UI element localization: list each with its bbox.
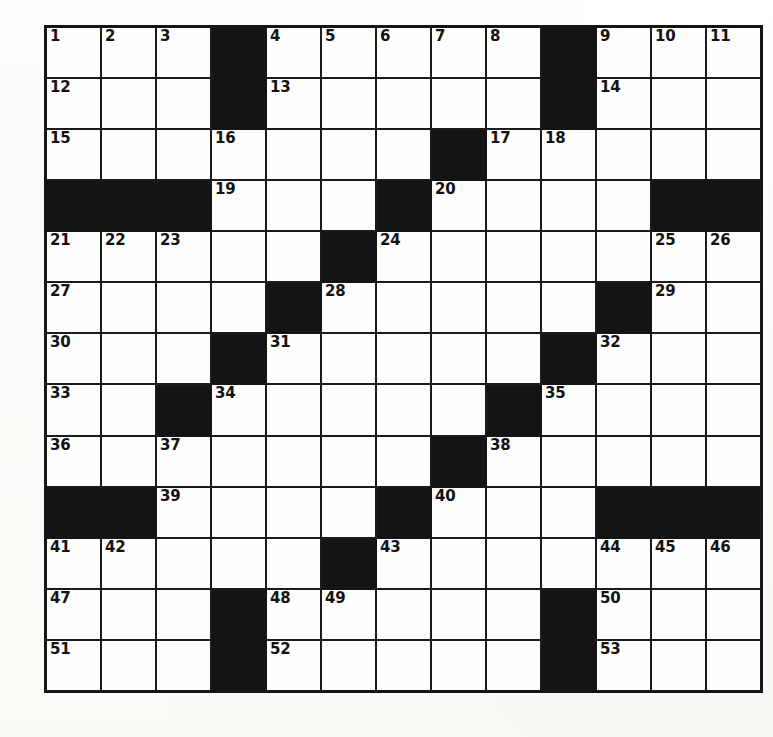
crossword-cell[interactable] xyxy=(266,436,321,487)
crossword-cell[interactable]: 9 xyxy=(596,27,651,79)
crossword-cell[interactable] xyxy=(321,180,376,231)
crossword-cell[interactable] xyxy=(156,129,211,180)
crossword-cell[interactable]: 31 xyxy=(266,333,321,384)
crossword-cell[interactable] xyxy=(321,384,376,435)
crossword-cell[interactable] xyxy=(706,384,762,435)
crossword-cell[interactable] xyxy=(431,282,486,333)
crossword-cell[interactable] xyxy=(156,333,211,384)
crossword-cell[interactable]: 15 xyxy=(46,129,102,180)
crossword-cell[interactable] xyxy=(266,129,321,180)
crossword-cell[interactable] xyxy=(431,333,486,384)
crossword-cell[interactable]: 19 xyxy=(211,180,266,231)
crossword-cell[interactable] xyxy=(211,436,266,487)
crossword-cell[interactable] xyxy=(156,640,211,692)
crossword-cell[interactable] xyxy=(211,538,266,589)
crossword-cell[interactable]: 28 xyxy=(321,282,376,333)
crossword-cell[interactable]: 8 xyxy=(486,27,541,79)
crossword-cell[interactable] xyxy=(706,78,762,129)
crossword-cell[interactable]: 35 xyxy=(541,384,596,435)
crossword-cell[interactable] xyxy=(376,282,431,333)
crossword-cell[interactable] xyxy=(596,129,651,180)
crossword-cell[interactable]: 42 xyxy=(101,538,156,589)
crossword-cell[interactable] xyxy=(706,282,762,333)
crossword-cell[interactable] xyxy=(541,180,596,231)
crossword-cell[interactable] xyxy=(321,333,376,384)
crossword-cell[interactable]: 49 xyxy=(321,589,376,640)
crossword-cell[interactable]: 6 xyxy=(376,27,431,79)
crossword-cell[interactable] xyxy=(376,589,431,640)
crossword-cell[interactable] xyxy=(376,436,431,487)
crossword-cell[interactable]: 11 xyxy=(706,27,762,79)
crossword-cell[interactable] xyxy=(431,231,486,282)
crossword-cell[interactable]: 51 xyxy=(46,640,102,692)
crossword-cell[interactable] xyxy=(266,180,321,231)
crossword-cell[interactable]: 43 xyxy=(376,538,431,589)
crossword-cell[interactable] xyxy=(596,231,651,282)
crossword-cell[interactable]: 3 xyxy=(156,27,211,79)
crossword-cell[interactable] xyxy=(101,384,156,435)
crossword-cell[interactable]: 47 xyxy=(46,589,102,640)
crossword-cell[interactable]: 5 xyxy=(321,27,376,79)
crossword-cell[interactable] xyxy=(321,487,376,538)
crossword-cell[interactable]: 1 xyxy=(46,27,102,79)
crossword-cell[interactable]: 13 xyxy=(266,78,321,129)
crossword-cell[interactable]: 37 xyxy=(156,436,211,487)
crossword-cell[interactable]: 14 xyxy=(596,78,651,129)
crossword-cell[interactable] xyxy=(101,589,156,640)
crossword-cell[interactable]: 26 xyxy=(706,231,762,282)
crossword-cell[interactable]: 34 xyxy=(211,384,266,435)
crossword-grid[interactable]: 1234567891011121314151617181920212223242… xyxy=(44,25,763,693)
crossword-cell[interactable]: 52 xyxy=(266,640,321,692)
crossword-cell[interactable] xyxy=(321,436,376,487)
crossword-cell[interactable] xyxy=(156,589,211,640)
crossword-cell[interactable] xyxy=(651,333,706,384)
crossword-cell[interactable]: 39 xyxy=(156,487,211,538)
crossword-cell[interactable] xyxy=(486,487,541,538)
crossword-cell[interactable] xyxy=(211,231,266,282)
crossword-cell[interactable]: 45 xyxy=(651,538,706,589)
crossword-cell[interactable] xyxy=(266,538,321,589)
crossword-cell[interactable] xyxy=(101,640,156,692)
crossword-cell[interactable] xyxy=(376,640,431,692)
crossword-cell[interactable]: 27 xyxy=(46,282,102,333)
crossword-cell[interactable]: 29 xyxy=(651,282,706,333)
crossword-cell[interactable] xyxy=(156,78,211,129)
crossword-cell[interactable] xyxy=(266,231,321,282)
crossword-cell[interactable] xyxy=(156,538,211,589)
crossword-cell[interactable] xyxy=(706,589,762,640)
crossword-cell[interactable] xyxy=(101,78,156,129)
crossword-cell[interactable] xyxy=(541,538,596,589)
crossword-cell[interactable] xyxy=(321,78,376,129)
crossword-cell[interactable]: 50 xyxy=(596,589,651,640)
crossword-cell[interactable]: 33 xyxy=(46,384,102,435)
crossword-cell[interactable] xyxy=(596,384,651,435)
crossword-cell[interactable] xyxy=(651,436,706,487)
crossword-cell[interactable] xyxy=(541,436,596,487)
crossword-cell[interactable]: 30 xyxy=(46,333,102,384)
crossword-cell[interactable] xyxy=(541,282,596,333)
crossword-cell[interactable] xyxy=(651,129,706,180)
crossword-cell[interactable] xyxy=(596,180,651,231)
crossword-cell[interactable]: 24 xyxy=(376,231,431,282)
crossword-cell[interactable]: 2 xyxy=(101,27,156,79)
crossword-cell[interactable] xyxy=(431,640,486,692)
crossword-cell[interactable] xyxy=(486,78,541,129)
crossword-cell[interactable] xyxy=(486,589,541,640)
crossword-cell[interactable]: 48 xyxy=(266,589,321,640)
crossword-cell[interactable] xyxy=(486,282,541,333)
crossword-cell[interactable] xyxy=(211,282,266,333)
crossword-cell[interactable]: 25 xyxy=(651,231,706,282)
crossword-cell[interactable] xyxy=(486,180,541,231)
crossword-cell[interactable]: 46 xyxy=(706,538,762,589)
crossword-cell[interactable] xyxy=(651,384,706,435)
crossword-cell[interactable]: 4 xyxy=(266,27,321,79)
crossword-cell[interactable]: 12 xyxy=(46,78,102,129)
crossword-cell[interactable] xyxy=(651,640,706,692)
crossword-cell[interactable]: 23 xyxy=(156,231,211,282)
crossword-cell[interactable] xyxy=(211,487,266,538)
crossword-cell[interactable] xyxy=(431,589,486,640)
crossword-cell[interactable] xyxy=(486,333,541,384)
crossword-cell[interactable]: 36 xyxy=(46,436,102,487)
crossword-cell[interactable] xyxy=(101,333,156,384)
crossword-cell[interactable] xyxy=(321,129,376,180)
